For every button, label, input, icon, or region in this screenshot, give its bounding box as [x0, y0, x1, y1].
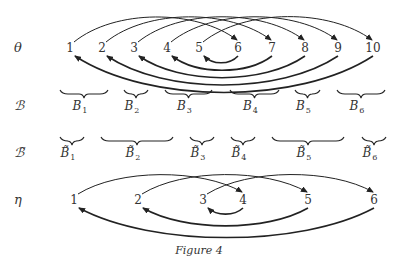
node-label: 9 — [334, 41, 342, 55]
node-label: 7 — [268, 41, 276, 55]
node-label: 10 — [365, 41, 380, 55]
theta-row: θ12345678910 — [14, 17, 381, 93]
block-label: B̃1 — [60, 145, 76, 162]
block-label: B6 — [349, 99, 365, 115]
node-label: 5 — [304, 193, 312, 207]
eta-row: η123456 — [14, 175, 378, 238]
node-label: 8 — [301, 41, 309, 55]
forward-arc — [203, 17, 372, 42]
node-label: 1 — [70, 193, 78, 207]
node-label: 6 — [234, 41, 242, 55]
block-label: B̃6 — [362, 145, 378, 162]
block-label: B4 — [242, 99, 258, 115]
block-label: B1 — [72, 99, 88, 115]
backward-arc — [204, 56, 238, 63]
block-brace — [295, 90, 320, 98]
backward-arc — [139, 56, 305, 78]
row-label: ℬ — [14, 98, 25, 113]
backward-arc — [79, 208, 374, 238]
block-brace — [362, 137, 386, 145]
block-label: B̃5 — [296, 145, 312, 162]
block-brace — [60, 90, 108, 98]
row-label: η — [14, 192, 22, 207]
block-label: B3 — [176, 99, 192, 115]
node-label: 1 — [66, 41, 74, 55]
node-label: 4 — [239, 193, 247, 207]
b-blocks-row: ℬB1B2B3B4B5B6 — [14, 90, 385, 115]
block-label: B̃2 — [125, 145, 141, 162]
node-label: 2 — [98, 41, 106, 55]
node-label: 3 — [130, 41, 138, 55]
node-label: 4 — [163, 41, 171, 55]
node-label: 5 — [195, 41, 203, 55]
block-brace — [124, 90, 148, 98]
node-label: 6 — [370, 193, 378, 207]
b-tilde-blocks-row: ℬ̃B̃1B̃2B̃3B̃4B̃5B̃6 — [14, 137, 386, 162]
block-label: B5 — [295, 99, 311, 115]
backward-arc — [208, 208, 243, 214]
block-brace — [101, 137, 173, 145]
forward-arc — [106, 17, 271, 42]
block-brace — [272, 137, 344, 145]
figure-caption: Figure 4 — [174, 244, 223, 257]
forward-arc — [78, 175, 242, 194]
block-label: B̃4 — [231, 145, 247, 162]
row-label: ℬ̃ — [14, 145, 26, 160]
block-label: B̃3 — [190, 145, 206, 162]
block-label: B2 — [124, 99, 140, 115]
block-brace — [190, 137, 214, 145]
block-brace — [231, 137, 255, 145]
block-brace — [60, 137, 84, 145]
permutation-diagram: θ12345678910 ℬB1B2B3B4B5B6 ℬ̃B̃1B̃2B̃3B̃… — [0, 0, 399, 269]
node-label: 3 — [199, 193, 207, 207]
node-label: 2 — [134, 193, 142, 207]
block-brace — [337, 90, 385, 98]
backward-arc — [143, 208, 308, 226]
row-label: θ — [14, 40, 22, 55]
